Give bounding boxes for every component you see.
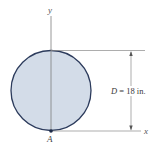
point-a-label: A xyxy=(47,134,53,144)
point-a-marker xyxy=(49,129,53,133)
diagram-canvas xyxy=(0,0,161,151)
dimension-label: D = 18 in. xyxy=(110,86,147,96)
dimension-value: 18 in. xyxy=(126,86,145,96)
x-axis-label: x xyxy=(144,126,148,136)
arrow-up-icon xyxy=(129,51,132,56)
arrow-down-icon xyxy=(129,126,132,131)
dimension-equals: = xyxy=(119,86,124,96)
y-axis-label: y xyxy=(48,5,52,15)
dimension-symbol: D xyxy=(111,86,117,96)
